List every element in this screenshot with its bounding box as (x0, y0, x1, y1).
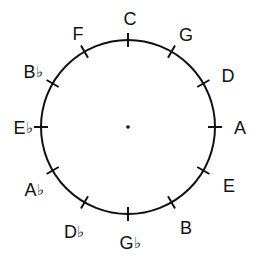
center-dot (126, 125, 130, 129)
diagram-canvas (0, 0, 258, 263)
tick-mark-a-flat (47, 167, 59, 174)
note-label-f: F (73, 25, 84, 43)
note-label-a-flat: A♭ (24, 181, 43, 200)
flat-symbol: ♭ (37, 181, 44, 198)
tick-mark-d (197, 80, 209, 87)
circle-of-fifths-diagram: CGDAEBG♭D♭A♭E♭B♭F (0, 0, 258, 263)
tick-mark-f (81, 46, 88, 58)
tick-mark-e (197, 167, 209, 174)
note-label-d: D (222, 67, 235, 85)
tick-mark-g (168, 46, 175, 58)
note-label-e-flat: E♭ (13, 119, 32, 138)
note-label-a: A (234, 119, 246, 137)
note-label-b: B (180, 219, 192, 237)
flat-symbol: ♭ (134, 234, 141, 251)
note-label-e: E (223, 177, 235, 195)
note-label-g: G (179, 26, 193, 44)
tick-mark-b (168, 196, 175, 208)
note-label-d-flat: D♭ (64, 223, 84, 242)
flat-symbol: ♭ (36, 63, 43, 80)
flat-symbol: ♭ (26, 119, 33, 136)
note-label-g-flat: G♭ (119, 234, 140, 253)
note-label-b-flat: B♭ (23, 63, 42, 82)
note-label-c: C (124, 10, 137, 28)
tick-mark-d-flat (81, 196, 88, 208)
tick-mark-b-flat (47, 80, 59, 87)
flat-symbol: ♭ (77, 223, 84, 240)
